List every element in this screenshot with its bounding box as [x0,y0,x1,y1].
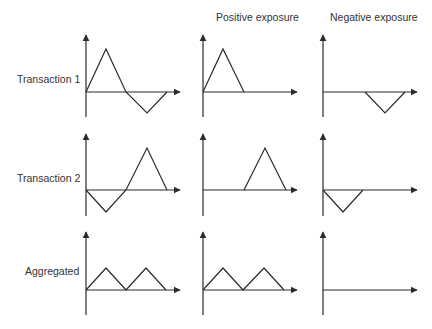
negative-exposure-line [365,92,405,113]
negative-exposure-line [323,190,363,212]
exposure-diagram [0,0,432,329]
panel-transaction-1-positive-exposure [203,35,297,117]
panel-transaction-2-positive-exposure [203,134,297,216]
positive-exposure-line [203,49,244,92]
exposure-line [86,49,167,113]
positive-exposure-line [244,148,286,190]
panel-aggregated-negative-exposure [323,232,417,315]
panel-aggregated-exposure [86,232,180,315]
panel-transaction-1-exposure [86,35,180,117]
panel-transaction-2-negative-exposure [323,134,417,216]
exposure-line [86,148,167,212]
panel-aggregated-positive-exposure [203,232,297,315]
panel-transaction-1-negative-exposure [323,35,417,117]
positive-exposure-line [203,268,284,290]
exposure-line [86,268,166,290]
panel-transaction-2-exposure [86,134,180,216]
